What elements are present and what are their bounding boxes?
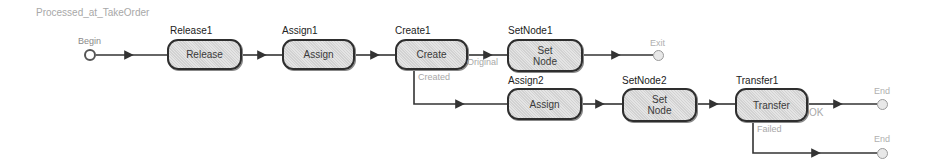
create-node-text: Create <box>416 49 446 60</box>
setnode1-node-text: Set Node <box>533 45 557 67</box>
setnode2-name: SetNode2 <box>622 75 666 86</box>
setnode2-node-text: Set Node <box>648 94 672 116</box>
edge-label-failed: Failed <box>757 124 782 134</box>
workflow-canvas: Processed_at_TakeOrder <box>0 0 927 166</box>
connector-lines <box>0 0 927 166</box>
assign2-node-text: Assign <box>529 99 559 110</box>
begin-node[interactable] <box>84 49 96 61</box>
end1-node[interactable] <box>877 99 888 110</box>
assign2-node[interactable]: Assign <box>507 88 582 120</box>
setnode1-name: SetNode1 <box>508 25 552 36</box>
release-node-text: Release <box>186 49 223 60</box>
begin-label: Begin <box>78 36 101 46</box>
transfer-node-text: Transfer <box>753 100 790 111</box>
create1-name: Create1 <box>395 25 431 36</box>
assign1-node[interactable]: Assign <box>282 39 355 70</box>
end2-label: End <box>874 134 890 144</box>
assign1-name: Assign1 <box>282 25 318 36</box>
release-node[interactable]: Release <box>167 39 242 70</box>
edge-label-original: Original <box>467 57 498 67</box>
edge-label-created: Created <box>418 72 450 82</box>
edge-label-ok: OK <box>809 107 823 118</box>
end1-label: End <box>874 86 890 96</box>
assign1-node-text: Assign <box>303 49 333 60</box>
end2-node[interactable] <box>877 148 888 159</box>
exit-node[interactable] <box>653 50 664 61</box>
exit-label: Exit <box>650 38 665 48</box>
transfer1-name: Transfer1 <box>736 75 778 86</box>
release1-name: Release1 <box>170 25 212 36</box>
setnode2-node[interactable]: Set Node <box>622 88 697 122</box>
setnode1-node[interactable]: Set Node <box>507 39 583 72</box>
assign2-name: Assign2 <box>508 75 544 86</box>
transfer-node[interactable]: Transfer <box>735 88 808 122</box>
create-node[interactable]: Create <box>395 39 468 70</box>
